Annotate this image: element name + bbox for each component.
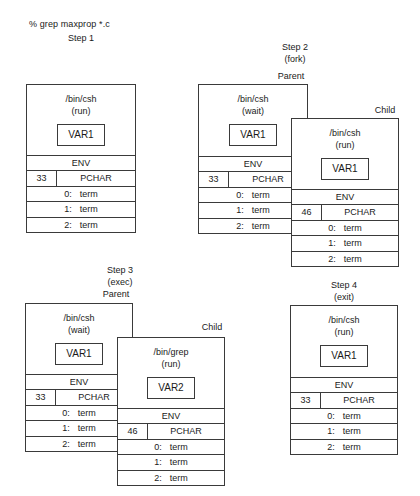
fd-target: term	[252, 190, 270, 200]
fd-row: 2:term	[292, 251, 398, 266]
fd-number: 2:	[327, 440, 335, 455]
fd-number: 2:	[62, 437, 70, 452]
fd-number: 1:	[328, 236, 336, 251]
fd-number: 0:	[62, 406, 70, 421]
fd-row: 0:term	[27, 186, 135, 201]
fd-target: term	[78, 423, 96, 433]
fd-number: 1:	[64, 202, 72, 217]
fd-target: term	[343, 442, 361, 452]
variable-box: VAR1	[320, 345, 368, 367]
child-label: Child	[367, 104, 403, 116]
process-id: 46	[292, 205, 322, 219]
program-path: /bin/csh (wait)	[26, 312, 132, 336]
process-table: ENV 46 PCHAR 0:term 1:term 2:term	[118, 408, 224, 485]
process-state: (wait)	[26, 324, 132, 336]
fd-target: term	[78, 439, 96, 449]
fd-target: term	[80, 189, 98, 199]
step-1-title: Step 1	[56, 32, 106, 44]
process-table: ENV 33 PCHAR 0:term 1:term 2:term	[291, 377, 397, 454]
fd-row: 2:term	[291, 439, 397, 454]
fd-target: term	[343, 411, 361, 421]
fd-row: 2:term	[27, 217, 135, 232]
fd-target: term	[343, 426, 361, 436]
fd-row: 1:term	[292, 235, 398, 250]
program-name: /bin/csh	[27, 93, 135, 105]
program-path: /bin/csh (run)	[292, 127, 398, 151]
env-row: ENV	[118, 408, 224, 423]
variable-box: VAR1	[57, 124, 105, 146]
step-4-header: Step 4 (exit)	[319, 279, 369, 303]
process-id: 46	[118, 424, 148, 438]
variable-box: VAR1	[229, 124, 277, 146]
variable-box: VAR1	[55, 343, 103, 365]
fd-target: term	[344, 254, 362, 264]
fd-target: term	[170, 442, 188, 452]
shell-command: % grep maxprop *.c	[29, 19, 110, 29]
pchar-row: 33 PCHAR	[27, 170, 135, 185]
env-row: ENV	[27, 155, 135, 170]
process-state: (run)	[118, 358, 224, 370]
program-name: /bin/csh	[291, 314, 397, 326]
pchar-label: PCHAR	[322, 205, 398, 219]
fd-row: 2:term	[118, 470, 224, 485]
program-name: /bin/csh	[292, 127, 398, 139]
process-state: (run)	[292, 139, 398, 151]
step-1-process-box: /bin/csh (run) VAR1 ENV 33 PCHAR 0:term …	[26, 84, 136, 233]
fd-number: 2:	[236, 219, 244, 234]
fd-target: term	[344, 238, 362, 248]
fd-target: term	[80, 204, 98, 214]
variable-box: VAR1	[321, 158, 369, 180]
process-table: ENV 33 PCHAR 0:term 1:term 2:term	[27, 155, 135, 232]
program-name: /bin/grep	[118, 346, 224, 358]
fd-target: term	[78, 408, 96, 418]
process-state: (wait)	[199, 105, 307, 117]
env-row: ENV	[291, 377, 397, 392]
program-name: /bin/csh	[26, 312, 132, 324]
fd-number: 1:	[154, 455, 162, 470]
process-id: 33	[291, 393, 321, 407]
pchar-label: PCHAR	[148, 424, 224, 438]
program-path: /bin/grep (run)	[118, 346, 224, 370]
fd-row: 0:term	[118, 439, 224, 454]
fd-number: 0:	[328, 221, 336, 236]
step-3-title: Step 3	[95, 264, 145, 276]
step-4-subtitle: (exit)	[319, 291, 369, 303]
step-2-title: Step 2	[270, 41, 320, 53]
step-2-header: Step 2 (fork)	[270, 41, 320, 65]
step-2-subtitle: (fork)	[270, 53, 320, 65]
fd-number: 1:	[236, 203, 244, 218]
fd-target: term	[252, 221, 270, 231]
program-path: /bin/csh (wait)	[199, 93, 307, 117]
fd-target: term	[252, 205, 270, 215]
program-path: /bin/csh (run)	[27, 93, 135, 117]
env-row: ENV	[292, 189, 398, 204]
step-4-title: Step 4	[319, 279, 369, 291]
process-id: 33	[199, 172, 229, 186]
step-4-process-box: /bin/csh (run) VAR1 ENV 33 PCHAR 0:term …	[290, 305, 398, 455]
pchar-row: 46 PCHAR	[292, 204, 398, 219]
fd-number: 0:	[64, 187, 72, 202]
process-state: (run)	[27, 105, 135, 117]
pchar-label: PCHAR	[321, 393, 397, 407]
step-3-header: Step 3 (exec)	[95, 264, 145, 288]
fd-target: term	[80, 220, 98, 230]
step-2-child-box: /bin/csh (run) VAR1 ENV 46 PCHAR 0:term …	[291, 118, 399, 267]
process-id: 33	[26, 390, 56, 404]
fd-number: 2:	[64, 218, 72, 233]
fd-number: 1:	[327, 424, 335, 439]
fd-row: 0:term	[292, 220, 398, 235]
fd-target: term	[344, 223, 362, 233]
process-state: (run)	[291, 326, 397, 338]
pchar-row: 46 PCHAR	[118, 423, 224, 438]
fd-number: 1:	[62, 421, 70, 436]
step-3-child-box: /bin/grep (run) VAR2 ENV 46 PCHAR 0:term…	[117, 337, 225, 486]
program-path: /bin/csh (run)	[291, 314, 397, 338]
step-3-subtitle: (exec)	[95, 276, 145, 288]
pchar-label: PCHAR	[57, 171, 135, 185]
parent-label: Parent	[271, 70, 311, 82]
child-label: Child	[194, 321, 230, 333]
fd-number: 2:	[154, 471, 162, 486]
process-id: 33	[27, 171, 57, 185]
fd-row: 1:term	[118, 454, 224, 469]
pchar-row: 33 PCHAR	[291, 392, 397, 407]
